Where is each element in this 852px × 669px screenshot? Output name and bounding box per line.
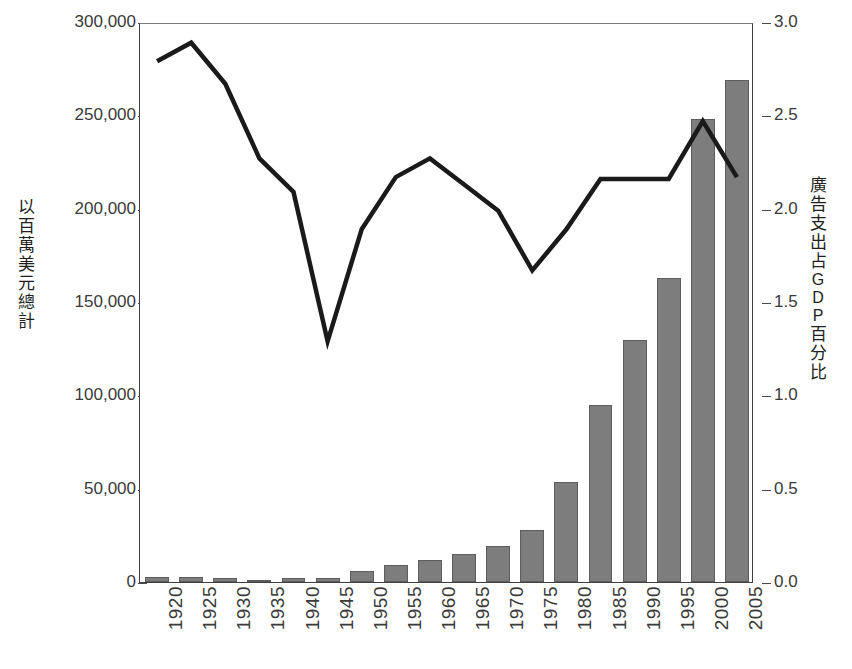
y-axis-left-tick-label: 100,000 [36,385,136,405]
axis-title-char: 總 [14,293,38,312]
x-axis-tick-label: 1955 [404,586,426,658]
x-axis-tick-label: 1980 [574,586,596,658]
x-axis-tick-label: 1965 [472,586,494,658]
x-axis-tick-label: 1925 [199,586,221,658]
y-axis-left-tick-label: 300,000 [36,12,136,32]
x-axis-tick-label: 2005 [745,586,767,658]
y-axis-left-tick-label: 200,000 [36,199,136,219]
y-axis-left-ticks: 050,000100,000150,000200,000250,000300,0… [36,0,136,669]
line-series-svg [140,24,754,584]
x-axis-tick-label: 1970 [506,586,528,658]
axis-title-char: 計 [14,312,38,331]
advertising-expenditure-chart: 以百萬美元總計 廣告支出占GDP百分比 050,000100,000150,00… [0,0,852,669]
y-axis-right-tick-label: 2.5 [762,105,834,125]
y-axis-right-tick-label: 1.0 [762,385,834,405]
x-axis-ticks: 1920192519301935194019451950195519601965… [139,586,753,669]
x-axis-tick-label: 1920 [165,586,187,658]
x-axis-tick-label: 1930 [233,586,255,658]
y-axis-right-ticks: 0.00.51.01.52.02.53.0 [762,0,822,669]
y-axis-right-tick-label: 3.0 [762,12,834,32]
axis-title-char: 萬 [14,236,38,255]
x-axis-tick-label: 1960 [438,586,460,658]
y-axis-right-tick-label: 1.5 [762,292,834,312]
y-axis-left-title: 以百萬美元總計 [14,198,38,331]
y-axis-right-tick-label: 0.5 [762,479,834,499]
line-series [140,24,752,582]
axis-title-char: 美 [14,255,38,274]
y-axis-left-tick-label: 50,000 [36,479,136,499]
x-axis-tick-label: 1995 [677,586,699,658]
x-axis-tick-label: 1940 [302,586,324,658]
x-axis-tick-label: 1975 [540,586,562,658]
x-axis-tick-label: 1935 [267,586,289,658]
x-axis-tick-label: 1945 [336,586,358,658]
axis-title-char: 以 [14,198,38,217]
x-axis-tick-label: 2000 [711,586,733,658]
x-axis-tick-label: 1950 [370,586,392,658]
axis-title-char: 元 [14,274,38,293]
y-axis-right-tick-label: 2.0 [762,199,834,219]
plot-area [139,23,753,583]
x-axis-tick-label: 1990 [643,586,665,658]
gdp-percent-line [157,43,737,342]
y-axis-left-tick-label: 250,000 [36,105,136,125]
y-axis-left-tick-label: 150,000 [36,292,136,312]
x-axis-tick-label: 1985 [609,586,631,658]
y-axis-right-tick-label: 0.0 [762,572,834,592]
y-axis-left-tick-label: 0 [36,572,136,592]
axis-title-char: 百 [14,217,38,236]
